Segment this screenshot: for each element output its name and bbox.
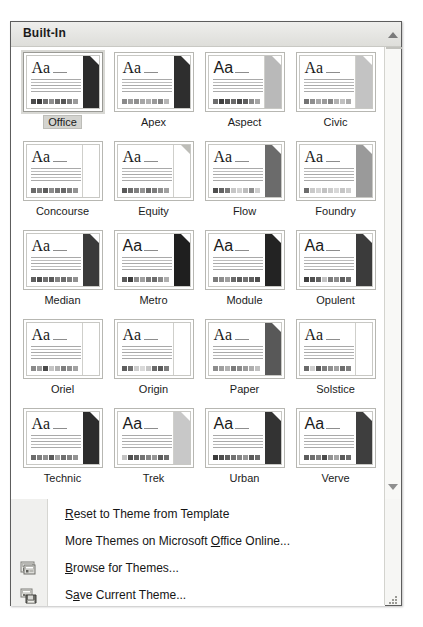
theme-color-swatches (304, 366, 351, 371)
theme-item-metro[interactable]: AaMetro (108, 230, 199, 319)
theme-item-equity[interactable]: AaEquity (108, 141, 199, 230)
theme-grid-row: AaOrielAaOriginAaPaperAaSolstice (17, 319, 385, 408)
theme-swatch (73, 188, 78, 193)
theme-swatch (134, 99, 139, 104)
theme-swatch (49, 99, 54, 104)
theme-thumbnail[interactable]: Aa (114, 230, 194, 290)
theme-label: Paper (225, 382, 264, 396)
menu-item-0[interactable]: Reset to Theme from Template (49, 501, 385, 527)
theme-text-lines (31, 79, 82, 94)
theme-swatch (237, 188, 242, 193)
theme-item-technic[interactable]: AaTechnic (17, 408, 108, 497)
scrollbar-thumb[interactable] (386, 47, 402, 49)
theme-thumbnail[interactable]: Aa (205, 52, 285, 112)
theme-thumbnail[interactable]: Aa (114, 408, 194, 468)
resize-grip-icon[interactable] (389, 594, 399, 604)
theme-swatch (122, 277, 127, 282)
theme-swatch (243, 455, 248, 460)
theme-text-lines (304, 168, 355, 183)
theme-swatch (55, 366, 60, 371)
menu-item-2[interactable]: Browse for Themes... (49, 555, 385, 581)
theme-swatch (152, 366, 157, 371)
theme-sample-underline (326, 250, 340, 251)
theme-swatch (31, 99, 36, 104)
scroll-down-button[interactable] (385, 478, 401, 495)
theme-swatch (158, 99, 163, 104)
theme-thumbnail[interactable]: Aa (205, 230, 285, 290)
theme-thumbnail[interactable]: Aa (205, 141, 285, 201)
theme-thumbnail[interactable]: Aa (205, 408, 285, 468)
scrollbar-track[interactable] (385, 47, 401, 499)
theme-swatch (61, 366, 66, 371)
theme-thumbnail[interactable]: Aa (23, 52, 103, 112)
theme-preview-page: Aa (299, 144, 373, 198)
theme-grid-row: AaConcourseAaEquityAaFlowAaFoundry (17, 141, 385, 230)
theme-item-median[interactable]: AaMedian (17, 230, 108, 319)
page-fold-icon (272, 412, 281, 421)
theme-swatch (55, 99, 60, 104)
theme-item-apex[interactable]: AaApex (108, 52, 199, 141)
theme-item-civic[interactable]: AaCivic (290, 52, 381, 141)
theme-swatch (237, 277, 242, 282)
theme-text-lines (122, 79, 173, 94)
gallery-scrollbar[interactable] (384, 47, 401, 605)
theme-thumbnail[interactable]: Aa (114, 52, 194, 112)
page-fold-icon (272, 234, 281, 243)
theme-thumbnail[interactable]: Aa (205, 319, 285, 379)
theme-item-urban[interactable]: AaUrban (199, 408, 290, 497)
theme-color-swatches (304, 188, 351, 193)
theme-sample-underline (53, 428, 67, 429)
theme-text-lines (213, 168, 264, 183)
theme-swatch (243, 366, 248, 371)
theme-item-module[interactable]: AaModule (199, 230, 290, 319)
theme-swatch (255, 455, 260, 460)
theme-swatch (243, 188, 248, 193)
theme-swatch (67, 99, 72, 104)
theme-item-aspect[interactable]: AaAspect (199, 52, 290, 141)
menu-item-3[interactable]: Save Current Theme... (49, 582, 385, 608)
theme-thumbnail[interactable]: Aa (114, 141, 194, 201)
theme-preview-page: Aa (208, 233, 282, 287)
theme-item-opulent[interactable]: AaOpulent (290, 230, 381, 319)
theme-swatch (158, 188, 163, 193)
theme-item-verve[interactable]: AaVerve (290, 408, 381, 497)
theme-swatch (213, 99, 218, 104)
theme-thumbnail[interactable]: Aa (23, 319, 103, 379)
theme-thumbnail[interactable]: Aa (296, 319, 376, 379)
menu-item-1[interactable]: More Themes on Microsoft Office Online..… (49, 528, 385, 554)
page-fold-icon (363, 234, 372, 243)
theme-item-oriel[interactable]: AaOriel (17, 319, 108, 408)
theme-item-flow[interactable]: AaFlow (199, 141, 290, 230)
theme-thumbnail[interactable]: Aa (296, 230, 376, 290)
theme-sample-text: Aa (123, 60, 142, 76)
theme-item-origin[interactable]: AaOrigin (108, 319, 199, 408)
theme-thumbnail[interactable]: Aa (23, 141, 103, 201)
theme-thumbnail[interactable]: Aa (296, 408, 376, 468)
theme-item-office[interactable]: AaOffice (17, 52, 108, 141)
theme-swatch (43, 366, 48, 371)
theme-item-foundry[interactable]: AaFoundry (290, 141, 381, 230)
theme-sample-underline (235, 428, 249, 429)
theme-swatch (55, 277, 60, 282)
theme-item-paper[interactable]: AaPaper (199, 319, 290, 408)
theme-swatch (164, 99, 169, 104)
theme-swatch (140, 277, 145, 282)
theme-label: Urban (225, 471, 265, 485)
theme-swatch (328, 99, 333, 104)
theme-item-concourse[interactable]: AaConcourse (17, 141, 108, 230)
theme-swatch (134, 277, 139, 282)
theme-thumbnail[interactable]: Aa (296, 52, 376, 112)
scroll-up-button[interactable] (385, 26, 401, 43)
theme-swatch (316, 188, 321, 193)
theme-thumbnail[interactable]: Aa (23, 230, 103, 290)
theme-label: Apex (136, 115, 171, 129)
theme-swatch (231, 455, 236, 460)
theme-item-solstice[interactable]: AaSolstice (290, 319, 381, 408)
theme-item-trek[interactable]: AaTrek (108, 408, 199, 497)
theme-thumbnail[interactable]: Aa (114, 319, 194, 379)
theme-sample-text: Aa (32, 60, 51, 76)
theme-sample-underline (235, 72, 249, 73)
theme-thumbnail[interactable]: Aa (296, 141, 376, 201)
theme-thumbnail[interactable]: Aa (23, 408, 103, 468)
theme-swatch (140, 99, 145, 104)
